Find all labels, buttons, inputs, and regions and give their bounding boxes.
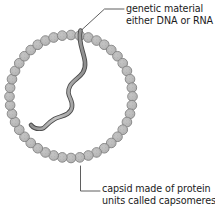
capsomere-shading	[127, 100, 137, 110]
virus-structure-diagram: genetic material either DNA or RNA capsi…	[0, 0, 215, 212]
leader-line-genetic-material	[81, 9, 125, 31]
capsomere-shading	[5, 100, 15, 110]
capsomere-shading	[127, 83, 137, 93]
capsomere-shading	[57, 153, 67, 163]
capsomere-shading	[128, 92, 138, 102]
capsomere-shading	[125, 74, 135, 84]
virus-illustration	[0, 0, 215, 212]
capsomere-shading	[49, 33, 59, 43]
label-capsid-line1: capsid made of protein	[102, 183, 215, 195]
label-capsid-line2: units called capsomeres	[102, 195, 215, 207]
label-genetic-material-line1: genetic material	[126, 3, 213, 15]
capsomere-shading	[84, 151, 94, 161]
label-genetic-material: genetic material either DNA or RNA	[126, 3, 213, 27]
leader-line-capsid	[81, 166, 101, 191]
capsomere-shading	[66, 153, 76, 163]
capsomere-shading	[5, 92, 15, 102]
capsomere-shading	[57, 31, 67, 41]
capsomere-shading	[5, 83, 15, 93]
label-capsid: capsid made of protein units called caps…	[102, 183, 215, 207]
capsomere-shading	[7, 109, 17, 119]
label-genetic-material-line2: either DNA or RNA	[126, 15, 213, 27]
capsomere-shading	[75, 153, 85, 163]
capsomere-shading	[66, 30, 76, 40]
